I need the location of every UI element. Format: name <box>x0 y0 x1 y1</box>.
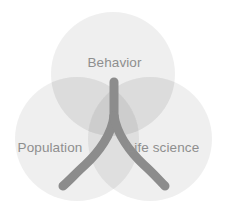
venn-label-behavior: Behavior <box>1 56 227 70</box>
venn-label-population: Population <box>0 141 101 155</box>
venn-diagram-canvas <box>0 0 227 215</box>
venn-label-life-science: Life science <box>111 141 215 155</box>
venn-diagram: Behavior Population Life science <box>0 0 227 215</box>
